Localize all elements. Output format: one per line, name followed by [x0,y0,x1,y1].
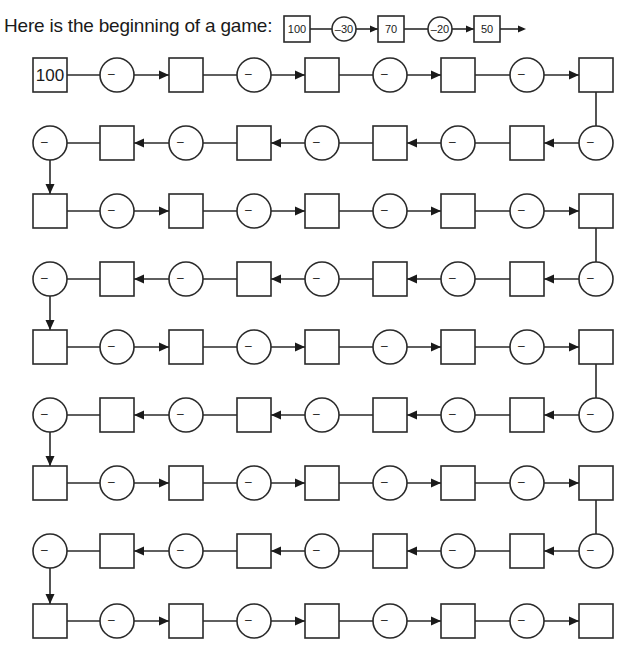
subtract-circle[interactable] [169,262,203,296]
value-box[interactable] [33,330,67,364]
value-box[interactable] [305,58,339,92]
subtract-circle[interactable] [441,398,475,432]
subtract-circle[interactable] [373,604,407,638]
subtract-circle[interactable] [237,58,271,92]
arrow-head-icon [46,184,55,194]
subtract-circle[interactable] [305,262,339,296]
subtract-circle[interactable] [373,58,407,92]
value-box[interactable] [510,398,544,432]
value-box[interactable] [305,330,339,364]
value-box[interactable] [100,126,134,160]
subtract-circle[interactable] [579,262,613,296]
arrow-head-icon [431,71,441,80]
subtract-circle[interactable] [579,534,613,568]
value-box[interactable] [441,330,475,364]
value-box[interactable] [237,398,271,432]
value-box[interactable] [373,534,407,568]
subtract-circle[interactable] [100,466,134,500]
arrow-head-icon [466,25,474,32]
value-box[interactable] [100,534,134,568]
value-box[interactable] [579,330,613,364]
arrow-head-icon [271,411,281,420]
subtract-circle[interactable] [579,398,613,432]
value-box[interactable] [237,534,271,568]
subtract-circle[interactable] [305,126,339,160]
value-box[interactable] [33,194,67,228]
value-box[interactable] [373,262,407,296]
subtract-circle[interactable] [510,58,544,92]
value-box[interactable] [237,126,271,160]
arrow-head-icon [46,456,55,466]
arrow-head-icon [46,594,55,604]
board-row: –––– [33,330,613,364]
value-box[interactable] [305,466,339,500]
arrow-head-icon [295,617,305,626]
minus-sign: – [587,543,594,557]
subtract-circle[interactable] [305,398,339,432]
value-box[interactable] [510,126,544,160]
subtract-circle[interactable] [579,126,613,160]
value-box[interactable] [510,262,544,296]
value-box[interactable] [441,58,475,92]
subtract-circle[interactable] [373,330,407,364]
value-box[interactable] [579,194,613,228]
value-box[interactable] [169,604,203,638]
subtract-circle[interactable] [373,466,407,500]
subtract-circle[interactable] [441,534,475,568]
value-box[interactable] [510,534,544,568]
minus-sign: – [518,203,525,217]
value-box[interactable] [373,126,407,160]
subtract-circle[interactable] [510,466,544,500]
subtract-circle[interactable] [169,126,203,160]
minus-sign: – [381,475,388,489]
minus-sign: – [108,475,115,489]
minus-sign: – [381,67,388,81]
subtract-circle[interactable] [237,330,271,364]
subtract-circle[interactable] [33,534,67,568]
value-box[interactable] [441,604,475,638]
value-box[interactable] [579,58,613,92]
value-box[interactable] [579,604,613,638]
value-box[interactable] [33,466,67,500]
value-box[interactable] [305,194,339,228]
minus-sign: – [518,613,525,627]
value-box[interactable] [579,466,613,500]
subtract-circle[interactable] [33,262,67,296]
subtract-circle[interactable] [237,466,271,500]
value-box[interactable] [169,194,203,228]
minus-sign: – [245,475,252,489]
subtract-circle[interactable] [169,534,203,568]
arrow-head-icon [544,411,554,420]
subtract-circle[interactable] [373,194,407,228]
value-box[interactable] [100,262,134,296]
subtract-circle[interactable] [305,534,339,568]
arrow-head-icon [271,547,281,556]
minus-sign: – [449,543,456,557]
subtract-circle[interactable] [510,194,544,228]
value-box[interactable] [100,398,134,432]
subtract-circle[interactable] [237,194,271,228]
subtract-circle[interactable] [100,604,134,638]
value-box[interactable] [169,330,203,364]
value-box[interactable] [441,194,475,228]
value-box[interactable] [237,262,271,296]
subtract-circle[interactable] [169,398,203,432]
subtract-circle[interactable] [237,604,271,638]
value-box[interactable] [305,604,339,638]
subtract-circle[interactable] [441,262,475,296]
value-box[interactable] [33,604,67,638]
subtract-circle[interactable] [441,126,475,160]
subtract-circle[interactable] [33,398,67,432]
subtract-circle[interactable] [100,194,134,228]
minus-sign: – [108,203,115,217]
value-box[interactable] [169,466,203,500]
subtract-circle[interactable] [510,330,544,364]
subtract-circle[interactable] [510,604,544,638]
value-box[interactable] [441,466,475,500]
subtract-circle[interactable] [100,330,134,364]
value-box[interactable] [373,398,407,432]
arrow-head-icon [271,275,281,284]
subtract-circle[interactable] [33,126,67,160]
value-box[interactable] [169,58,203,92]
subtract-circle[interactable] [100,58,134,92]
